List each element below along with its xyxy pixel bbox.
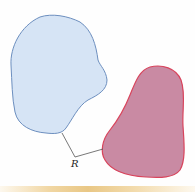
connector-line [62,133,103,157]
figure-canvas: R [0,0,195,192]
red-region [102,66,184,177]
figure-svg [0,0,195,192]
bottom-decorative-bar [0,186,195,192]
blue-region [11,15,107,133]
label-r: R [71,158,79,169]
